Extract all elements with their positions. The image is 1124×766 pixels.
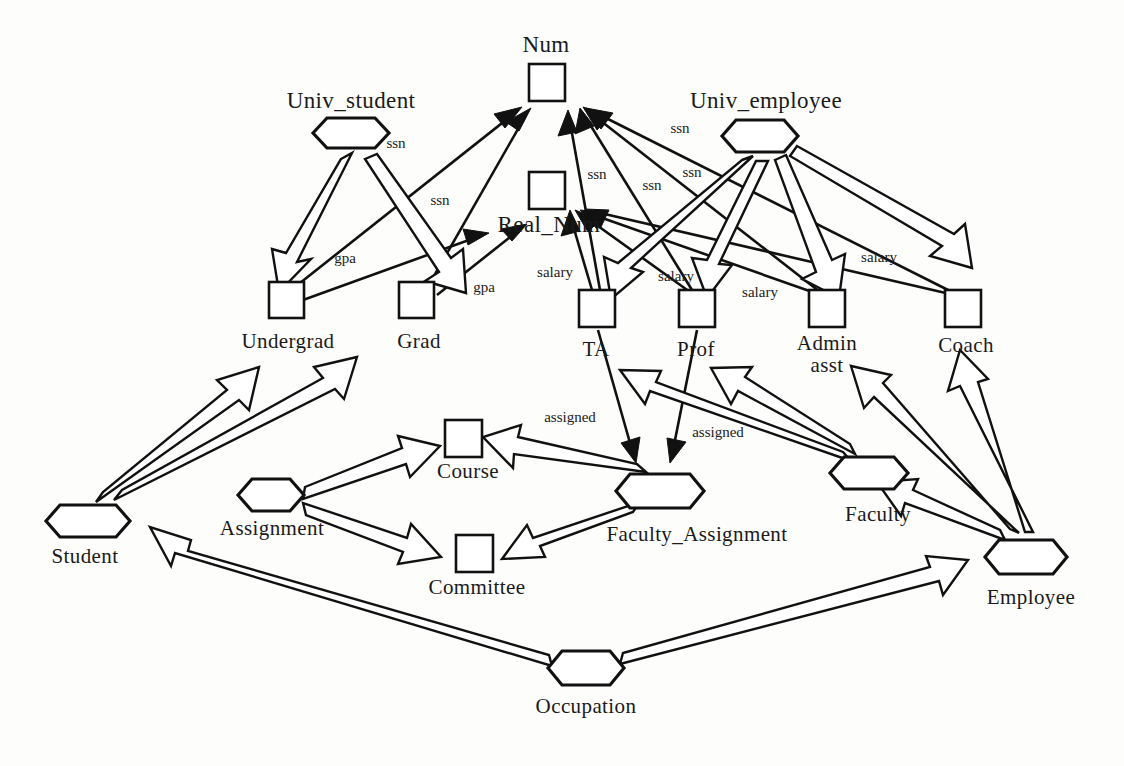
edge-label-assigned-committee: assigned xyxy=(692,424,744,440)
arrow-facultyassignment-course xyxy=(483,425,646,472)
node-univ-student[interactable] xyxy=(313,118,389,148)
edge-label-gpa-undergrad: gpa xyxy=(334,250,356,266)
label-faculty: Faculty xyxy=(845,502,911,526)
node-course[interactable] xyxy=(445,420,482,457)
nodes xyxy=(46,64,1067,685)
label-real-num: Real_Num xyxy=(498,212,601,237)
edge-label-ssn-grad: ssn xyxy=(430,192,450,208)
label-univ-employee: Univ_employee xyxy=(690,88,842,113)
node-ta[interactable] xyxy=(579,290,615,327)
label-student: Student xyxy=(52,544,119,568)
edge-label-ssn-coach: ssn xyxy=(670,120,690,136)
label-prof: Prof xyxy=(677,337,715,361)
label-committee: Committee xyxy=(429,575,526,599)
label-coach: Coach xyxy=(938,333,994,357)
label-faculty-assignment: Faculty_Assignment xyxy=(606,522,787,546)
label-ta: TA xyxy=(582,337,610,361)
arrow-occupation-employee xyxy=(620,556,968,664)
label-employee: Employee xyxy=(987,585,1075,609)
node-admin-asst[interactable] xyxy=(809,290,845,327)
label-admin-asst-line2: asst xyxy=(810,353,843,377)
node-employee[interactable] xyxy=(985,540,1067,574)
label-course: Course xyxy=(437,459,499,483)
node-student[interactable] xyxy=(46,505,130,537)
edge-label-gpa-grad: gpa xyxy=(473,279,495,295)
arrow-univstudent-undergrad xyxy=(272,153,352,292)
edge-label-ssn-admin: ssn xyxy=(682,164,702,180)
node-assignment[interactable] xyxy=(238,479,304,511)
edge-label-ssn-prof: ssn xyxy=(642,177,662,193)
node-grad[interactable] xyxy=(399,282,434,318)
er-diagram-svg: Num Real_Num Univ_student Univ_employee … xyxy=(0,0,1124,766)
er-diagram-canvas: Num Real_Num Univ_student Univ_employee … xyxy=(0,0,1124,766)
node-coach[interactable] xyxy=(945,290,981,327)
node-faculty-assignment[interactable] xyxy=(616,474,704,508)
label-univ-student: Univ_student xyxy=(287,88,416,113)
label-num: Num xyxy=(522,32,569,57)
node-prof[interactable] xyxy=(679,290,715,327)
node-num[interactable] xyxy=(529,64,565,101)
edge-label-salary-ta: salary xyxy=(537,264,573,280)
edge-label-salary-coach: salary xyxy=(861,249,897,265)
edge-label-assigned-course: assigned xyxy=(544,409,596,425)
arrow-assignment-course xyxy=(303,436,440,499)
label-occupation: Occupation xyxy=(536,694,637,718)
label-admin-asst: Admin xyxy=(797,331,857,355)
edge-label-ssn-ta: ssn xyxy=(587,166,607,182)
edge-label-ssn-undergrad: ssn xyxy=(386,135,406,151)
label-grad: Grad xyxy=(397,329,441,353)
node-occupation[interactable] xyxy=(548,651,624,685)
node-committee[interactable] xyxy=(456,535,493,572)
node-real-num[interactable] xyxy=(529,172,565,209)
label-undergrad: Undergrad xyxy=(241,329,334,353)
label-assignment: Assignment xyxy=(220,516,324,540)
node-univ-employee[interactable] xyxy=(722,120,798,152)
edge-label-salary-prof: salary xyxy=(658,268,694,284)
edge-label-salary-admin: salary xyxy=(742,284,778,300)
node-faculty[interactable] xyxy=(830,457,908,489)
node-undergrad[interactable] xyxy=(269,282,304,318)
